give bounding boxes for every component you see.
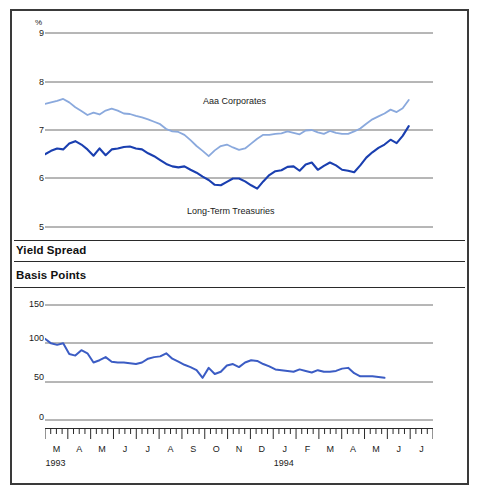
spread-ytick-0: 0 bbox=[14, 413, 44, 422]
x-axis-month-label: M bbox=[323, 444, 337, 454]
yield-gridlines bbox=[45, 33, 433, 227]
yield-ytick-6: 6 bbox=[18, 174, 44, 183]
series-label-aaa-corporates: Aaa Corporates bbox=[203, 96, 266, 106]
yield-ytick-8: 8 bbox=[18, 78, 44, 87]
yield-ytick-5: 5 bbox=[18, 223, 44, 232]
x-axis-month-label: J bbox=[141, 444, 155, 454]
spread-ytick-150: 150 bbox=[14, 300, 44, 309]
x-axis-month-label: D bbox=[255, 444, 269, 454]
yield-spread-heading: Yield Spread bbox=[16, 244, 86, 256]
figure-root: % 9 8 7 6 5 Aaa Corporates Long-Term Tre… bbox=[0, 0, 479, 494]
x-axis-month-label: A bbox=[346, 444, 360, 454]
series-long-term-treasuries-line bbox=[45, 126, 409, 189]
x-axis-svg bbox=[45, 428, 433, 442]
yield-spread-rule-top bbox=[14, 240, 465, 241]
x-axis-month-label: J bbox=[392, 444, 406, 454]
x-axis-year-label: 1994 bbox=[274, 458, 294, 468]
yield-ytick-9: 9 bbox=[18, 29, 44, 38]
x-axis-year-label: 1993 bbox=[45, 458, 65, 468]
series-yield-spread-line bbox=[45, 339, 385, 378]
spread-chart-plot bbox=[45, 304, 433, 421]
x-axis-month-label: A bbox=[164, 444, 178, 454]
x-axis-month-label: F bbox=[300, 444, 314, 454]
x-axis-month-label: A bbox=[72, 444, 86, 454]
x-axis-month-label: O bbox=[209, 444, 223, 454]
yield-axis-unit-label: % bbox=[35, 19, 42, 27]
x-axis-month-label: J bbox=[278, 444, 292, 454]
x-axis-ticks bbox=[45, 428, 433, 439]
x-axis-month-label: M bbox=[49, 444, 63, 454]
yield-spread-rule-bottom bbox=[14, 261, 465, 262]
x-axis-month-label: M bbox=[369, 444, 383, 454]
x-axis bbox=[45, 428, 433, 442]
x-axis-month-label: S bbox=[186, 444, 200, 454]
spread-gridlines bbox=[45, 305, 433, 420]
x-axis-month-label: M bbox=[95, 444, 109, 454]
yield-chart-plot bbox=[45, 27, 433, 233]
x-axis-month-label: J bbox=[118, 444, 132, 454]
x-axis-month-label: J bbox=[415, 444, 429, 454]
basis-points-heading: Basis Points bbox=[16, 269, 86, 281]
spread-ytick-100: 100 bbox=[14, 334, 44, 343]
spread-chart-svg bbox=[45, 304, 433, 421]
yield-chart-svg bbox=[45, 27, 433, 233]
basis-points-rule bbox=[14, 287, 465, 288]
series-label-long-term-treasuries: Long-Term Treasuries bbox=[187, 206, 275, 216]
spread-ytick-50: 50 bbox=[14, 373, 44, 382]
yield-ytick-7: 7 bbox=[18, 126, 44, 135]
x-axis-month-label: N bbox=[232, 444, 246, 454]
